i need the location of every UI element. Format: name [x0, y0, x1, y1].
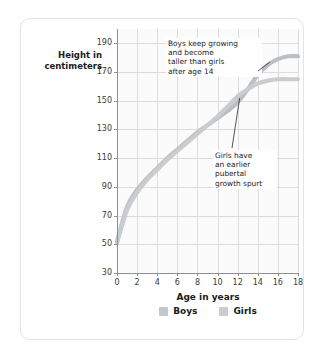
- x-tick-mark: [278, 273, 279, 276]
- x-tick-label: 12: [230, 278, 246, 287]
- x-tick-mark: [137, 273, 138, 276]
- x-tick-mark: [177, 273, 178, 276]
- y-tick-mark: [114, 129, 117, 130]
- y-tick-label: 130: [82, 124, 112, 133]
- x-tick-mark: [197, 273, 198, 276]
- legend-item-girls: Girls: [219, 306, 256, 316]
- x-tick-label: 2: [129, 278, 145, 287]
- series-line-boys: [117, 56, 298, 241]
- y-tick-mark: [114, 101, 117, 102]
- y-tick-mark: [114, 244, 117, 245]
- legend-swatch-boys: [159, 307, 168, 316]
- y-tick-mark: [114, 72, 117, 73]
- x-tick-mark: [258, 273, 259, 276]
- x-tick-label: 6: [169, 278, 185, 287]
- y-tick-mark: [114, 158, 117, 159]
- x-tick-label: 8: [189, 278, 205, 287]
- annotation-girls: Girls have an earlier pubertal growth sp…: [213, 150, 277, 189]
- y-tick-label: 90: [82, 182, 112, 191]
- legend-item-boys: Boys: [159, 306, 197, 316]
- gridline-v: [298, 29, 299, 273]
- x-tick-mark: [238, 273, 239, 276]
- y-tick-label: 30: [82, 268, 112, 277]
- chart-figure: Height in centimeters 305070901101301501…: [0, 0, 325, 355]
- y-axis-line: [117, 29, 118, 274]
- legend-label-boys: Boys: [173, 306, 197, 316]
- x-tick-label: 10: [210, 278, 226, 287]
- y-tick-label: 150: [82, 96, 112, 105]
- x-tick-label: 18: [290, 278, 306, 287]
- legend-label-girls: Girls: [233, 306, 256, 316]
- x-axis-label: Age in years: [117, 292, 299, 302]
- y-tick-mark: [114, 216, 117, 217]
- x-tick-mark: [117, 273, 118, 276]
- y-tick-mark: [114, 187, 117, 188]
- y-tick-label: 190: [82, 38, 112, 47]
- y-tick-label: 110: [82, 153, 112, 162]
- x-tick-mark: [298, 273, 299, 276]
- x-tick-label: 16: [270, 278, 286, 287]
- y-tick-label: 50: [82, 239, 112, 248]
- x-tick-label: 4: [149, 278, 165, 287]
- x-tick-label: 14: [250, 278, 266, 287]
- x-axis-line: [117, 273, 299, 274]
- y-tick-label: 70: [82, 211, 112, 220]
- annotation-boys: Boys keep growing and become taller than…: [166, 38, 262, 77]
- x-tick-label: 0: [109, 278, 125, 287]
- chart-legend: Boys Girls: [117, 306, 299, 316]
- x-tick-mark: [218, 273, 219, 276]
- y-tick-mark: [114, 43, 117, 44]
- y-tick-label: 170: [82, 67, 112, 76]
- legend-swatch-girls: [219, 307, 228, 316]
- x-tick-mark: [157, 273, 158, 276]
